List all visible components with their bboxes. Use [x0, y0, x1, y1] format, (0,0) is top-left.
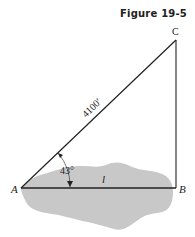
angle-arrow-top-icon — [58, 153, 63, 158]
shaded-region — [21, 162, 173, 229]
vertex-c-label: C — [172, 26, 179, 37]
triangle-diagram: A B C 4100′ 43° l — [0, 0, 195, 237]
vertex-a-label: A — [10, 183, 18, 195]
angle-label: 43° — [60, 165, 74, 176]
side-ac — [21, 40, 176, 188]
vertex-b-label: B — [179, 183, 186, 195]
hypotenuse-label: 4100′ — [80, 96, 104, 119]
base-length-label: l — [102, 173, 105, 185]
